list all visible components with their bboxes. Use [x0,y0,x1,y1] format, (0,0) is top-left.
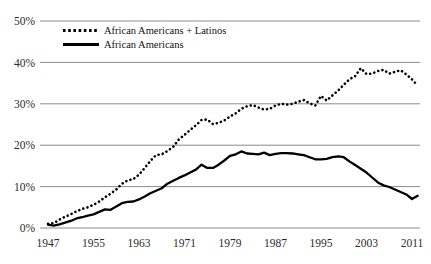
y-tick-label: 0% [20,222,36,234]
chart-background [0,0,431,264]
x-tick-label: 1963 [128,237,151,249]
y-tick-label: 10% [14,181,36,193]
y-tick-label: 40% [14,57,36,69]
y-tick-label: 50% [14,15,36,27]
x-tick-label: 2003 [355,237,378,249]
x-tick-label: 2011 [401,237,424,249]
legend-label: African Americans + Latinos [104,25,226,36]
line-chart: 0%10%20%30%40%50% 1947195519631971197919… [0,0,431,264]
x-tick-label: 1979 [219,237,242,249]
x-tick-label: 1995 [310,237,333,249]
x-tick-label: 1947 [37,237,60,249]
x-tick-label: 1987 [264,237,287,249]
y-tick-label: 30% [14,98,36,110]
x-tick-label: 1971 [173,237,196,249]
y-tick-label: 20% [14,139,36,151]
x-tick-label: 1955 [82,237,105,249]
legend-label: African Americans [104,39,184,50]
x-axis-tick-labels: 194719551963197119791987199520032011 [37,237,424,249]
chart-container: 0%10%20%30%40%50% 1947195519631971197919… [0,0,431,264]
